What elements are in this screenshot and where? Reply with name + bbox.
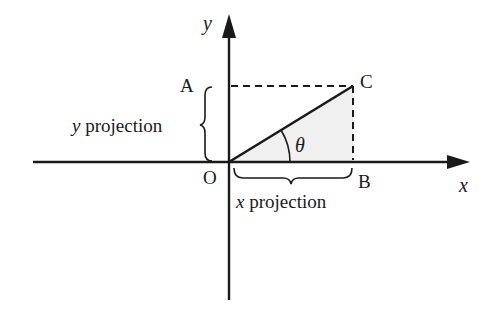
y-projection-var: y [72,115,80,136]
diagram-graphics [0,0,496,322]
angle-theta-label: θ [295,135,305,155]
y-projection-label: y projection [72,116,162,135]
y-axis-label: y [203,13,212,33]
point-b-label: B [358,172,371,191]
projection-diagram: y x A C O B θ y projection x projection [0,0,496,322]
x-axis-label: x [459,175,468,195]
x-projection-brace [234,168,352,184]
x-projection-text: projection [249,191,326,212]
x-projection-label: x projection [236,192,326,211]
x-projection-var: x [236,191,244,212]
point-c-label: C [360,72,373,91]
y-projection-text: projection [85,115,162,136]
origin-label: O [203,168,217,187]
point-a-label: A [180,76,194,95]
y-axis-arrowhead [222,14,236,38]
x-axis-arrowhead [447,155,470,169]
y-projection-brace [200,87,212,161]
